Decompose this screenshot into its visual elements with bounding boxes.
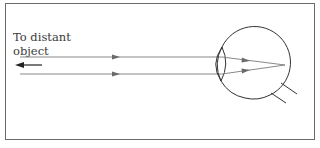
ray-arrowhead-icon <box>112 55 120 60</box>
optic-nerve <box>271 83 297 103</box>
eyeball <box>217 27 290 99</box>
ray-arrowhead-icon <box>242 69 251 74</box>
incoming-rays <box>20 57 222 74</box>
refracted-rays <box>222 57 285 74</box>
eye-ray-diagram <box>0 0 320 148</box>
ray-arrowhead-icon <box>112 72 120 77</box>
direction-arrow-icon <box>15 62 42 68</box>
